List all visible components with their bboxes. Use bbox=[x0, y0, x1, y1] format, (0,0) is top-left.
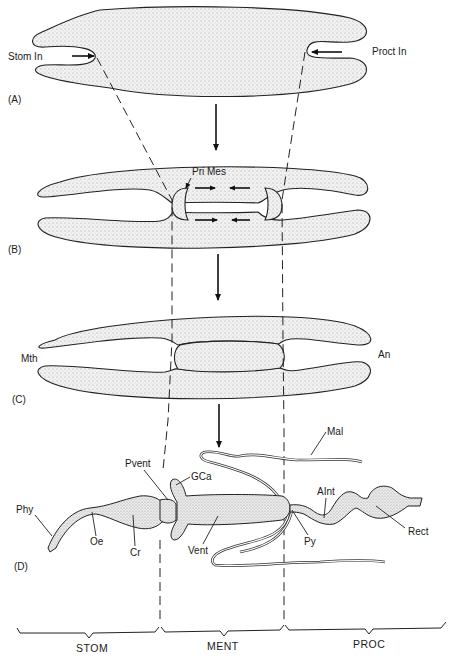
panel-b-embryo bbox=[38, 167, 370, 248]
region-label-stom: STOM bbox=[76, 642, 108, 654]
label-gca: GCa bbox=[191, 471, 212, 482]
label-proct-in: Proct In bbox=[372, 46, 406, 57]
label-phy: Phy bbox=[16, 504, 33, 515]
label-rect: Rect bbox=[408, 526, 429, 537]
label-stom-in: Stom In bbox=[8, 51, 42, 62]
panel-d-gut bbox=[48, 452, 422, 566]
leader-oe bbox=[92, 512, 96, 536]
label-vent: Vent bbox=[188, 545, 208, 556]
region-label-ment: MENT bbox=[207, 640, 239, 652]
label-py: Py bbox=[304, 536, 316, 547]
label-aint: AInt bbox=[317, 486, 335, 497]
region-label-proc: PROC bbox=[353, 638, 385, 650]
gut-development-diagram: Stom In Proct In (A) Pri Mes (B) Mth An … bbox=[0, 0, 455, 660]
panel-label-a: (A) bbox=[8, 94, 21, 105]
leader-phy bbox=[35, 515, 52, 536]
region-braces bbox=[17, 622, 446, 638]
panel-c-embryo bbox=[38, 316, 371, 398]
label-oe: Oe bbox=[90, 536, 104, 547]
label-pvent: Pvent bbox=[125, 458, 151, 469]
label-cr: Cr bbox=[130, 547, 141, 558]
label-pri-mes: Pri Mes bbox=[192, 166, 226, 177]
panel-label-d: (D) bbox=[14, 561, 28, 572]
label-mal: Mal bbox=[327, 426, 343, 437]
leader-mal bbox=[311, 432, 326, 455]
label-an: An bbox=[378, 349, 390, 360]
label-mth: Mth bbox=[21, 353, 38, 364]
panel-label-b: (B) bbox=[8, 244, 21, 255]
panel-label-c: (C) bbox=[12, 394, 26, 405]
